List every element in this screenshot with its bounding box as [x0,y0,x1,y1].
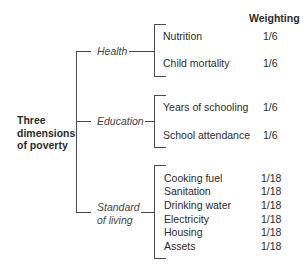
weight-electricity: 1/18 [261,213,281,225]
education-bracket-bottom [154,147,166,148]
indicator-cooking-fuel: Cooking fuel [164,172,222,184]
weight-housing: 1/18 [261,226,281,238]
main-bracket-health-stub [76,51,91,52]
standard-bracket-top [154,165,166,166]
dimension-standard-line2: of living [97,214,133,226]
standard-bracket-bottom [154,258,166,259]
dimension-education: Education [97,115,144,127]
indicator-drinking-water: Drinking water [164,199,231,211]
weighting-header: Weighting [249,12,300,24]
root-label-line2: dimensions [17,127,75,139]
main-bracket-education-stub [76,121,91,122]
indicator-sanitation: Sanitation [164,185,211,197]
standard-connector [141,212,154,213]
education-connector [145,121,154,122]
dimension-health: Health [97,45,127,57]
education-bracket-top [154,95,166,96]
weight-cooking-fuel: 1/18 [261,172,281,184]
weight-assets: 1/18 [261,240,281,252]
weight-school-attendance: 1/6 [263,129,278,141]
weight-sanitation: 1/18 [261,185,281,197]
main-bracket-vertical [76,51,77,213]
standard-bracket-vertical [154,165,155,259]
weight-child-mortality: 1/6 [263,57,278,69]
root-label-line1: Three [17,114,46,126]
weight-nutrition: 1/6 [263,30,278,42]
indicator-years-of-schooling: Years of schooling [163,101,248,113]
health-bracket-top [154,24,166,25]
indicator-electricity: Electricity [164,213,209,225]
indicator-school-attendance: School attendance [163,129,250,141]
indicator-assets: Assets [164,240,196,252]
root-label-line3: of poverty [17,139,68,151]
indicator-housing: Housing [164,226,203,238]
weight-years-of-schooling: 1/6 [263,101,278,113]
health-bracket-vertical [154,24,155,77]
main-bracket-standard-stub [76,212,91,213]
weight-drinking-water: 1/18 [261,199,281,211]
education-bracket-vertical [154,95,155,148]
dimension-standard-line1: Standard [97,201,140,213]
health-bracket-bottom [154,76,166,77]
health-connector [129,51,154,52]
indicator-child-mortality: Child mortality [163,57,230,69]
indicator-nutrition: Nutrition [163,30,202,42]
